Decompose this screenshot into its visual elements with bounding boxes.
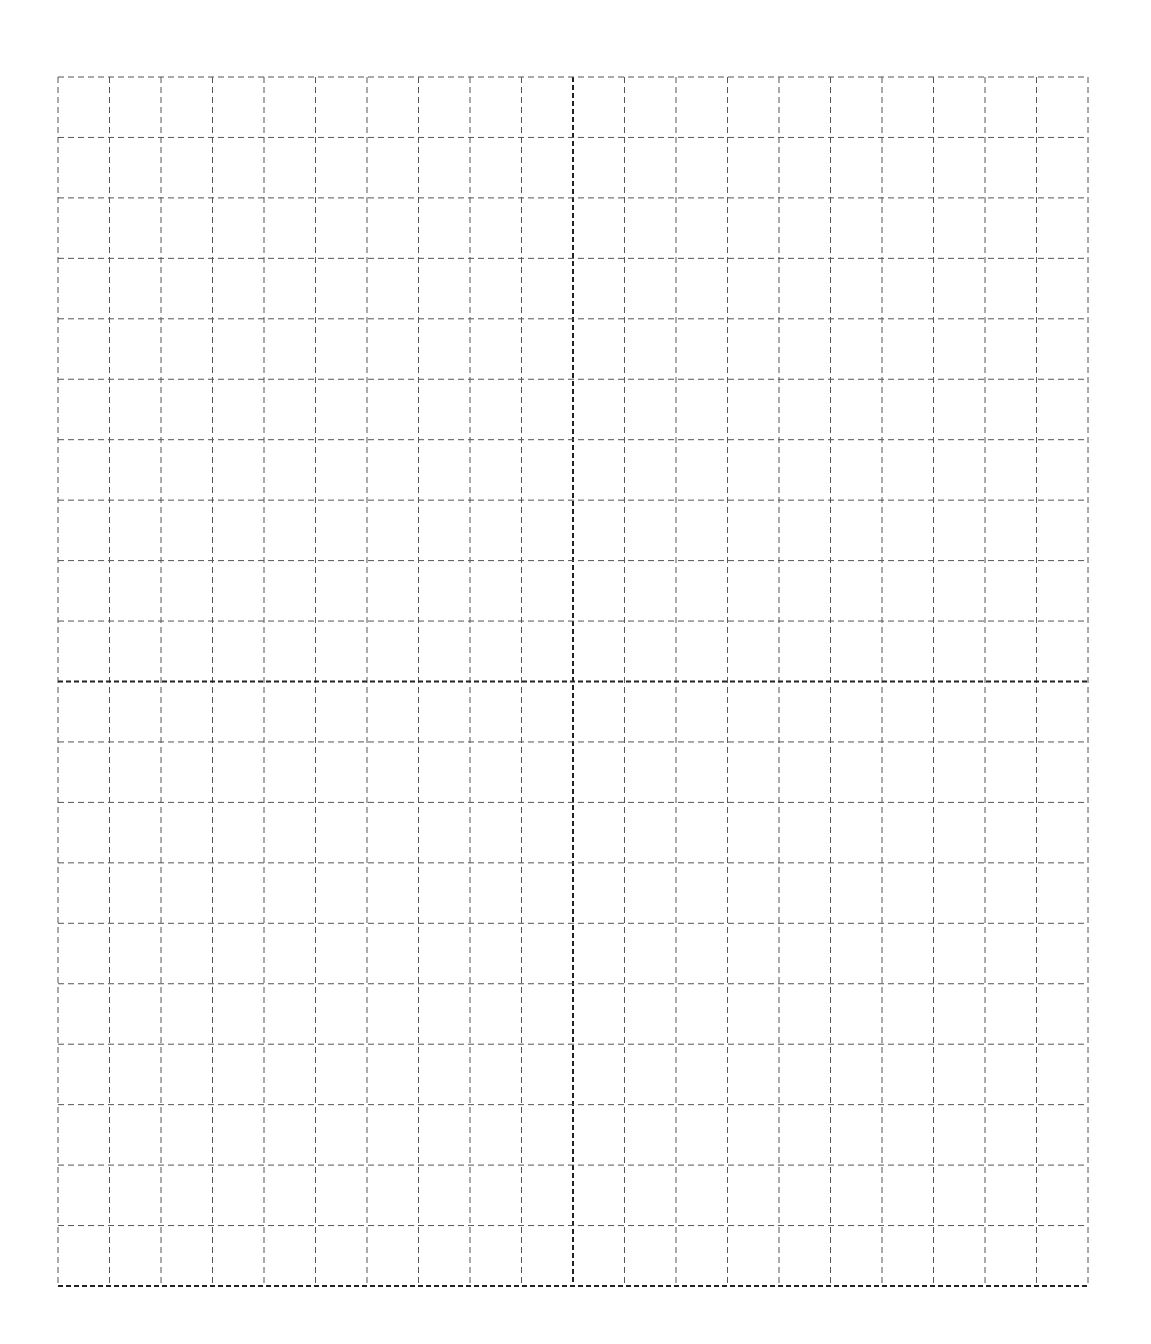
dashed-grid xyxy=(0,0,1151,1344)
